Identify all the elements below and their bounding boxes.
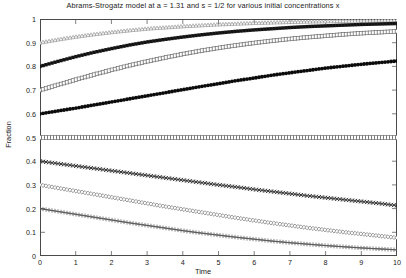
x-axis-label: Time [0,267,406,276]
x-tick-label: 7 [275,258,305,267]
chart-container: Abrams-Strogatz model at a = 1.31 and s … [0,0,406,278]
series-0.2 [40,206,397,252]
y-tick-label: 0.4 [6,157,36,166]
series-0.8 [40,22,397,68]
series-0.4 [40,159,397,207]
series-0.5 [40,135,397,139]
x-tick-label: 10 [382,258,406,267]
plot-series-layer [40,19,397,256]
y-tick-label: 0.2 [6,204,36,213]
x-tick-label: 3 [132,258,162,267]
x-tick-label: 2 [96,258,126,267]
y-tick-label: 1 [6,15,36,24]
y-tick-label: 0.7 [6,86,36,95]
series-0.6 [40,59,397,116]
x-tick-label: 4 [168,258,198,267]
series-0.3 [40,183,397,240]
y-axis-tick-labels: 00.10.20.30.40.50.60.70.80.91 [0,0,36,278]
x-tick-label: 9 [346,258,376,267]
chart-title: Abrams-Strogatz model at a = 1.31 and s … [0,1,406,10]
y-tick-label: 0.6 [6,109,36,118]
x-tick-label: 8 [311,258,341,267]
y-tick-label: 0.1 [6,228,36,237]
x-tick-label: 0 [25,258,55,267]
y-tick-label: 0.3 [6,180,36,189]
y-tick-label: 0.8 [6,62,36,71]
x-tick-label: 1 [61,258,91,267]
x-tick-label: 5 [204,258,234,267]
y-tick-label: 0.9 [6,38,36,47]
y-tick-label: 0.5 [6,133,36,142]
x-tick-label: 6 [239,258,269,267]
